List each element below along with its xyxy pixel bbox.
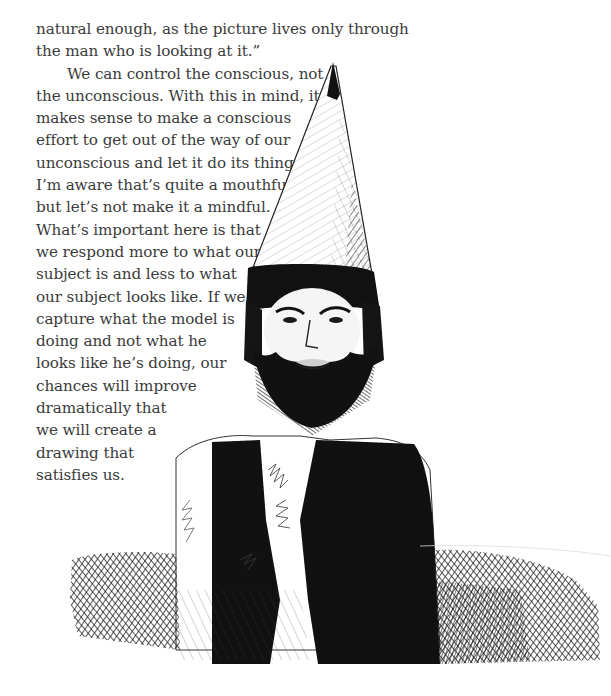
text-line: I’m aware that’s quite a mouthful, xyxy=(36,174,366,196)
body-text: natural enough, as the picture lives onl… xyxy=(36,18,366,486)
text-line: drawing that xyxy=(36,442,366,464)
text-line: satisfies us. xyxy=(36,464,366,486)
text-line: natural enough, as the picture lives onl… xyxy=(36,18,366,40)
text-line: What’s important here is that xyxy=(36,219,366,241)
text-line: we will create a xyxy=(36,419,366,441)
text-line: makes sense to make a conscious xyxy=(36,107,366,129)
text-line: our subject looks like. If we xyxy=(36,286,366,308)
text-line: We can control the conscious, not xyxy=(36,63,366,85)
text-line: doing and not what he xyxy=(36,330,366,352)
text-line: subject is and less to what xyxy=(36,263,366,285)
text-line: we respond more to what our xyxy=(36,241,366,263)
text-line: chances will improve xyxy=(36,375,366,397)
text-line: effort to get out of the way of our xyxy=(36,129,366,151)
book-page: natural enough, as the picture lives onl… xyxy=(0,0,611,696)
text-line: the unconscious. With this in mind, it xyxy=(36,85,366,107)
arms-and-base xyxy=(70,545,611,664)
text-line: the man who is looking at it.” xyxy=(36,40,366,62)
text-line: unconscious and let it do its thing. xyxy=(36,152,366,174)
text-line: looks like he’s doing, our xyxy=(36,352,366,374)
text-line: but let’s not make it a mindful. xyxy=(36,196,366,218)
text-line: dramatically that xyxy=(36,397,366,419)
text-line: capture what the model is xyxy=(36,308,366,330)
